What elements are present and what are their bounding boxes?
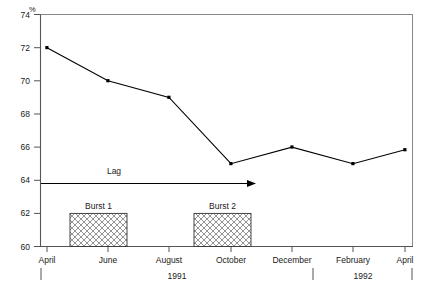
- line-chart-svg: % 74 72 70 68 66 64 62 60: [0, 0, 425, 291]
- y-tick-label: 64: [21, 175, 31, 185]
- x-tick-label: April: [38, 255, 55, 265]
- year-label-1991: 1991: [168, 271, 187, 281]
- x-tick-label: August: [156, 255, 183, 265]
- y-tick-label: 74: [21, 10, 31, 20]
- y-tick-label: 68: [21, 109, 31, 119]
- x-axis-ticks: [47, 247, 405, 253]
- data-point-marker: [167, 96, 170, 99]
- lag-label: Lag: [107, 166, 121, 176]
- burst-1-label: Burst 1: [85, 201, 112, 211]
- data-point-marker: [403, 148, 406, 151]
- x-tick-label: December: [272, 255, 311, 265]
- chart-container: % 74 72 70 68 66 64 62 60: [0, 0, 425, 291]
- x-axis-tick-labels: April June August October December Febru…: [38, 255, 413, 265]
- year-label-1992: 1992: [354, 271, 373, 281]
- plot-frame: [40, 15, 413, 247]
- y-tick-label: 62: [21, 208, 31, 218]
- data-point-marker: [351, 162, 354, 165]
- y-tick-label: 60: [21, 242, 31, 252]
- burst-2-box: Burst 2: [194, 201, 251, 247]
- y-axis-tick-labels: 74 72 70 68 66 64 62 60: [21, 10, 31, 252]
- data-point-marker: [106, 79, 109, 82]
- x-tick-label: October: [216, 255, 246, 265]
- x-tick-label: April: [396, 255, 413, 265]
- y-tick-label: 72: [21, 43, 31, 53]
- burst-1-box: Burst 1: [70, 201, 127, 247]
- x-tick-label: June: [99, 255, 118, 265]
- x-tick-label: February: [336, 255, 371, 265]
- data-series-rate: [45, 46, 406, 165]
- y-tick-label: 66: [21, 142, 31, 152]
- data-point-marker: [45, 46, 48, 49]
- burst-2-label: Burst 2: [209, 201, 236, 211]
- data-point-marker: [229, 162, 232, 165]
- y-tick-label: 70: [21, 76, 31, 86]
- data-point-marker: [290, 145, 293, 148]
- lag-annotation: Lag: [41, 166, 255, 184]
- y-axis-unit: %: [29, 5, 36, 14]
- y-axis-ticks: [34, 15, 40, 247]
